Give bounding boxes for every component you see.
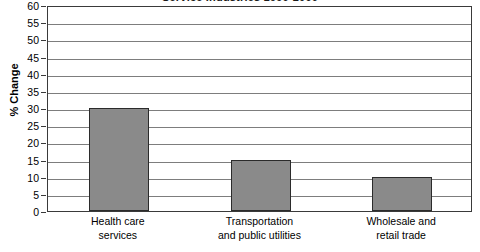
y-tick-label: 40: [13, 70, 39, 80]
x-axis-label-line: Transportation: [189, 215, 331, 229]
y-tick-label: 10: [13, 173, 39, 183]
y-tick-label: 30: [13, 104, 39, 114]
x-axis-label-line: and public utilities: [189, 229, 331, 243]
x-axis-label-line: Wholesale and: [330, 215, 472, 229]
y-tick-label: 20: [13, 138, 39, 148]
x-axis-label-line: Health care: [47, 215, 189, 229]
y-tick-mark: [41, 212, 46, 213]
y-tick-mark: [41, 40, 46, 41]
x-axis-label-line: services: [47, 229, 189, 243]
y-axis-tick-labels: 605550454035302520151050: [13, 0, 39, 252]
bars: [48, 7, 471, 211]
y-tick-mark: [41, 143, 46, 144]
x-axis-label-line: retail trade: [330, 229, 472, 243]
bar: [231, 160, 291, 212]
y-tick-label: 45: [13, 53, 39, 63]
y-tick-mark: [41, 195, 46, 196]
x-axis-category-labels: Health careservicesTransportationand pub…: [47, 215, 472, 252]
y-tick-mark: [41, 6, 46, 7]
y-tick-mark: [41, 92, 46, 93]
y-tick-label: 5: [13, 190, 39, 200]
bar: [372, 177, 432, 211]
y-tick-label: 15: [13, 156, 39, 166]
bar-chart: Service Industries 1990-2000 % Change 60…: [0, 0, 480, 252]
x-axis-label: Transportationand public utilities: [189, 215, 331, 242]
y-tick-label: 60: [13, 1, 39, 11]
y-tick-mark: [41, 161, 46, 162]
y-tick-label: 0: [13, 207, 39, 217]
plot-area: [47, 6, 472, 212]
chart-title: Service Industries 1990-2000: [0, 0, 480, 3]
x-axis-label: Health careservices: [47, 215, 189, 242]
y-tick-label: 55: [13, 18, 39, 28]
x-axis-label: Wholesale andretail trade: [330, 215, 472, 242]
y-tick-mark: [41, 58, 46, 59]
y-tick-mark: [41, 109, 46, 110]
y-tick-mark: [41, 23, 46, 24]
y-tick-mark: [41, 178, 46, 179]
bar: [89, 108, 149, 211]
y-tick-label: 35: [13, 87, 39, 97]
y-tick-mark: [41, 75, 46, 76]
y-tick-label: 50: [13, 35, 39, 45]
y-tick-mark: [41, 126, 46, 127]
y-tick-label: 25: [13, 121, 39, 131]
